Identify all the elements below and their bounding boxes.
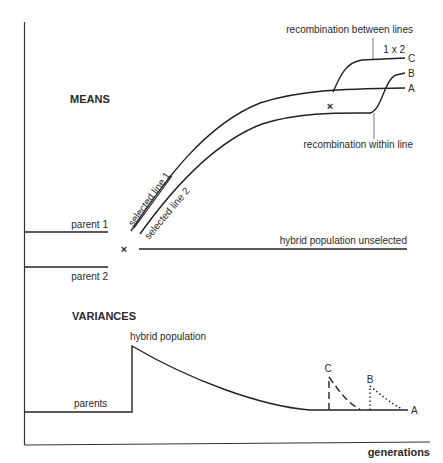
end-label-A: A — [408, 83, 415, 94]
variance-end-label-A: A — [411, 405, 418, 416]
peak-label-B: B — [367, 374, 374, 385]
variance-C-curve — [329, 377, 360, 410]
parent-1-label: parent 1 — [71, 219, 108, 230]
peak-label-C: C — [324, 363, 331, 374]
variance-B-curve — [370, 386, 402, 410]
selected-line-2-curve — [140, 73, 405, 234]
cross-symbol: × — [121, 243, 127, 255]
recombination-cross-symbol: × — [327, 100, 333, 112]
parents-variance-label: parents — [74, 398, 107, 409]
means-title: MEANS — [70, 93, 110, 105]
cross-1x2-label: 1 x 2 — [383, 44, 405, 55]
variances-title: VARIANCES — [72, 310, 136, 322]
recombination-between-curve — [333, 58, 405, 92]
x-axis-label: generations — [368, 446, 430, 458]
hybrid-unselected-label: hybrid population unselected — [280, 235, 407, 246]
recombination-within-label: recombination within line — [303, 139, 413, 150]
breeding-diagram: generations MEANS parent 1 parent 2 × hy… — [0, 0, 443, 463]
x-axis — [25, 442, 431, 445]
end-label-B: B — [408, 68, 415, 79]
parent-2-label: parent 2 — [71, 271, 108, 282]
hybrid-population-label: hybrid population — [130, 331, 206, 342]
end-label-C: C — [408, 53, 415, 64]
recombination-between-label: recombination between lines — [286, 24, 413, 35]
